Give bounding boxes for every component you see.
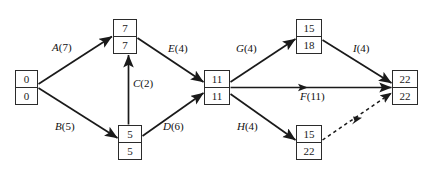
edge-label-A-duration: (7)	[59, 41, 72, 53]
edge-label-F: F(11)	[300, 91, 325, 102]
edge-label-B-duration: (5)	[62, 120, 75, 132]
node-15-18-late: 18	[297, 37, 321, 53]
node-finish[interactable]: 22 22	[392, 70, 418, 105]
edge-dummy-dashed	[323, 93, 392, 140]
edge-label-D-letter: D	[163, 120, 171, 132]
edge-label-E: E(4)	[168, 43, 188, 54]
edge-label-G: G(4)	[236, 43, 257, 54]
edge-label-H: H(4)	[237, 121, 258, 132]
node-11-11[interactable]: 11 11	[204, 70, 230, 105]
node-11-11-early: 11	[205, 71, 229, 88]
network-diagram-canvas: 0 0 7 7 5 5 11 11 15 18 15 22 22 22 A(7)…	[0, 0, 430, 172]
node-11-11-late: 11	[205, 88, 229, 104]
node-7-7[interactable]: 7 7	[113, 19, 137, 54]
edge-H	[231, 94, 296, 140]
edge-label-E-duration: (4)	[175, 42, 188, 54]
node-5-5-late: 5	[119, 143, 141, 159]
node-15-22[interactable]: 15 22	[296, 125, 322, 160]
edge-label-F-letter: F	[300, 90, 307, 102]
node-start-late: 0	[16, 88, 37, 104]
edge-label-B: B(5)	[55, 121, 75, 132]
edge-label-A: A(7)	[52, 42, 72, 53]
node-start-early: 0	[16, 71, 37, 88]
edge-label-I: I(4)	[353, 43, 370, 54]
edge-B	[39, 88, 118, 138]
edge-label-E-letter: E	[168, 42, 175, 54]
node-finish-early: 22	[393, 71, 417, 88]
edge-label-G-letter: G	[236, 42, 244, 54]
edge-label-D-duration: (6)	[171, 120, 184, 132]
node-5-5-early: 5	[119, 126, 141, 143]
node-15-22-late: 22	[297, 143, 321, 159]
edge-label-A-letter: A	[52, 41, 59, 53]
node-15-18[interactable]: 15 18	[296, 19, 322, 54]
edge-label-F-duration: (11)	[307, 90, 325, 102]
node-start[interactable]: 0 0	[15, 70, 38, 105]
node-7-7-early: 7	[114, 20, 136, 37]
edge-dummy-midpoint-arrowhead	[352, 117, 362, 125]
edge-A	[39, 37, 113, 85]
edge-label-C: C(2)	[133, 78, 153, 89]
edge-label-I-duration: (4)	[357, 42, 370, 54]
edge-label-D: D(6)	[163, 121, 184, 132]
node-15-22-early: 15	[297, 126, 321, 143]
node-7-7-late: 7	[114, 37, 136, 53]
edge-label-B-letter: B	[55, 120, 62, 132]
edge-label-H-letter: H	[237, 120, 245, 132]
node-5-5[interactable]: 5 5	[118, 125, 142, 160]
node-15-18-early: 15	[297, 20, 321, 37]
edge-label-C-duration: (2)	[140, 77, 153, 89]
node-finish-late: 22	[393, 88, 417, 104]
edge-label-H-duration: (4)	[245, 120, 258, 132]
edge-label-G-duration: (4)	[244, 42, 257, 54]
